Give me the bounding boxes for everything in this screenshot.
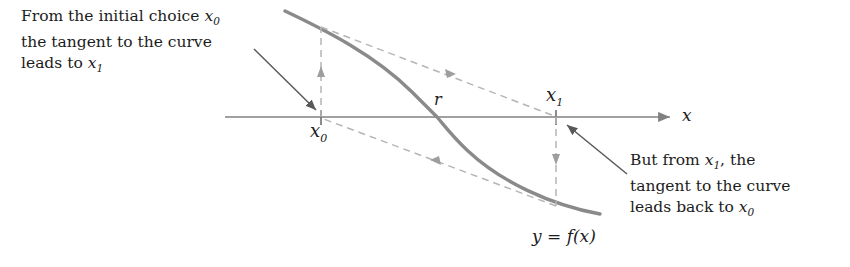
- dashed-tangent-x1-to-x0-arrowhead: [430, 156, 441, 165]
- function-label: y = f(x): [532, 226, 596, 246]
- left-caption-line-3-text: leads to: [21, 54, 83, 72]
- right-caption-line-2: tangent to the curve: [630, 176, 791, 197]
- function-label-arg: (x): [573, 226, 596, 246]
- right-caption-line-1-post: , the: [720, 151, 755, 169]
- newton-method-figure: From the initial choice x0 the tangent t…: [0, 0, 850, 267]
- left-caption-line-1-text: From the initial choice: [21, 7, 199, 25]
- axis-label-x: x: [682, 105, 692, 125]
- left-caption-pointer-arrow: [254, 49, 316, 110]
- left-caption-line-2: the tangent to the curve: [21, 32, 220, 53]
- left-caption: From the initial choice x0 the tangent t…: [21, 6, 220, 79]
- left-caption-line-3: leads to x1: [21, 53, 220, 79]
- left-caption-x0: x0: [204, 7, 219, 25]
- function-label-equals: =: [542, 226, 567, 246]
- right-caption-line-3-text: leads back to: [630, 198, 734, 216]
- axis-label-root-r: r: [434, 90, 442, 109]
- right-caption-pointer-arrow: [567, 125, 627, 174]
- dashed-vertical-x1-arrowhead: [552, 154, 560, 165]
- axis-label-x0: x0: [310, 120, 327, 145]
- function-label-y: y: [532, 226, 542, 246]
- right-caption-line-1: But from x1, the: [630, 150, 791, 176]
- right-caption: But from x1, the tangent to the curve le…: [630, 150, 791, 223]
- function-curve: [285, 11, 600, 214]
- right-caption-x1: x1: [705, 151, 720, 169]
- right-caption-line-3: leads back to x0: [630, 197, 791, 223]
- dashed-vertical-x0-arrowhead: [317, 66, 325, 77]
- right-caption-x0: x0: [739, 198, 754, 216]
- axis-label-x1: x1: [546, 84, 563, 109]
- left-caption-line-1: From the initial choice x0: [21, 6, 220, 32]
- left-caption-x1: x1: [88, 54, 103, 72]
- right-caption-line-1-pre: But from: [630, 151, 700, 169]
